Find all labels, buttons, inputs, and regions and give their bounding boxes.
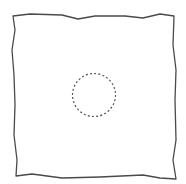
diagram-canvas <box>0 0 186 184</box>
dashed-circle <box>73 74 116 117</box>
diagram-svg <box>0 0 186 184</box>
wavy-square-outline <box>12 14 176 179</box>
